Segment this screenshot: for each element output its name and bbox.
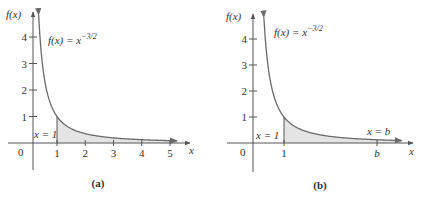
y-tick-label: 4 xyxy=(22,31,28,43)
y-tick-label: 3 xyxy=(242,59,248,71)
y-tick-label: 3 xyxy=(22,58,28,70)
panel-b: 1b 1234 f(x) 0 x f(x) = x−3/2 x = 1 x = … xyxy=(226,10,414,192)
x-axis-label-b: x xyxy=(408,145,414,157)
panel-label-b: (b) xyxy=(313,179,327,192)
y-tick-label: 2 xyxy=(22,84,28,96)
figure-canvas: 12345 1234 f(x) 0 x f(x) = x−3/2 x = 1 (… xyxy=(0,0,422,199)
boundary-label-b-left: x = 1 xyxy=(255,129,279,141)
x-tick-label: 1 xyxy=(281,147,287,159)
x-axis-label-a: x xyxy=(188,144,194,156)
y-axis-label-b: f(x) xyxy=(226,10,242,23)
y-ticks-b: 1234 xyxy=(242,33,258,123)
y-tick-label: 4 xyxy=(242,33,248,45)
x-tick-label: 4 xyxy=(139,147,145,159)
function-label-a: f(x) = x−3/2 xyxy=(48,32,97,47)
y-axis-label-a: f(x) xyxy=(6,8,22,21)
x-tick-label: 1 xyxy=(54,147,60,159)
boundary-label-a: x = 1 xyxy=(33,128,57,140)
x-tick-label: 3 xyxy=(111,147,117,159)
function-label-b: f(x) = x−3/2 xyxy=(274,24,323,39)
x-tick-label: 2 xyxy=(83,147,89,159)
y-tick-label: 1 xyxy=(22,111,28,123)
origin-label-a: 0 xyxy=(18,146,24,158)
y-tick-label: 2 xyxy=(242,85,248,97)
x-tick-label: 5 xyxy=(167,147,173,159)
x-tick-label: b xyxy=(374,147,380,159)
y-tick-label: 1 xyxy=(242,111,248,123)
panel-label-a: (a) xyxy=(92,177,105,190)
y-ticks-a: 1234 xyxy=(22,31,38,123)
boundary-label-b-right: x = b xyxy=(366,125,391,137)
panel-a: 12345 1234 f(x) 0 x f(x) = x−3/2 x = 1 (… xyxy=(6,8,194,190)
origin-label-b: 0 xyxy=(240,146,246,158)
